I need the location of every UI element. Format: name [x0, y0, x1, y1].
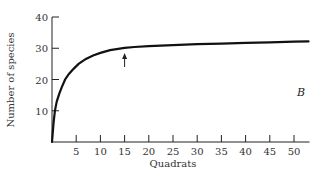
- y-tick-label: 30: [35, 43, 48, 54]
- x-tick-label: 45: [263, 146, 276, 157]
- species-area-chart: 10203040 5101520253035404550 Quadrats Nu…: [0, 0, 323, 179]
- x-tick-label: 25: [167, 146, 180, 157]
- annotations: [122, 53, 127, 67]
- x-tick-label: 10: [94, 146, 107, 157]
- x-tick-label: 15: [118, 146, 131, 157]
- x-tick-label: 35: [215, 146, 228, 157]
- axes: [52, 17, 310, 142]
- y-axis-label: Number of species: [5, 32, 16, 127]
- x-tick-label: 30: [191, 146, 204, 157]
- x-axis-label: Quadrats: [150, 158, 197, 169]
- x-tick-label: 50: [288, 146, 301, 157]
- arrow-head-icon: [122, 53, 127, 59]
- x-ticks: 5101520253035404550: [73, 135, 300, 157]
- panel-label: B: [296, 86, 305, 99]
- data-line: [52, 41, 309, 142]
- x-tick-label: 5: [73, 146, 79, 157]
- x-tick-label: 20: [142, 146, 155, 157]
- y-tick-label: 10: [35, 106, 48, 117]
- x-tick-label: 40: [239, 146, 252, 157]
- y-tick-label: 40: [35, 12, 48, 23]
- y-ticks: 10203040: [35, 12, 59, 117]
- y-tick-label: 20: [35, 75, 48, 86]
